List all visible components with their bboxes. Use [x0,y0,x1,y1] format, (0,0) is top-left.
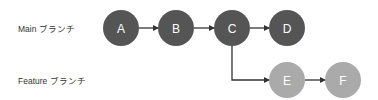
commit-label: D [283,22,292,36]
commit-label: E [283,74,291,88]
commit-label: B [172,22,180,36]
commit-node-F: F [325,62,361,98]
commit-label: A [117,22,125,36]
commit-node-D: D [269,10,305,46]
commit-node-E: E [269,62,305,98]
edge-C-E [232,46,269,80]
commit-node-B: B [158,10,194,46]
commit-node-A: A [103,10,139,46]
branch-diagram: ABCDEF [0,0,378,100]
commit-label: F [339,74,346,88]
commit-label: C [228,22,237,36]
commit-node-C: C [214,10,250,46]
